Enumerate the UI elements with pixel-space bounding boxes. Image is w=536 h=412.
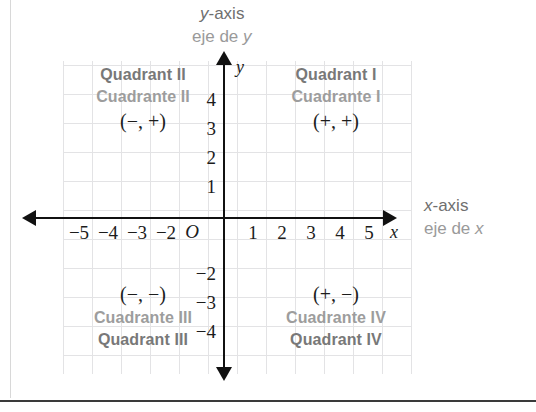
x-axis-tick-label: 5 bbox=[352, 222, 386, 244]
quadrant-4-label-english: Quadrant IV bbox=[261, 329, 411, 351]
x-axis-left-arrowhead-icon bbox=[22, 210, 36, 226]
grid-line-horizontal bbox=[63, 181, 411, 182]
x-axis-title-spanish-variable: x bbox=[475, 219, 484, 238]
x-axis-title-spanish: eje de x bbox=[424, 219, 484, 239]
x-axis-title-english-suffix: -axis bbox=[433, 196, 469, 215]
quadrant-3-label-group: (−, −) Cuadrante III Quadrant III bbox=[68, 281, 218, 351]
origin-label: O bbox=[178, 221, 206, 243]
y-axis-up-arrowhead-icon bbox=[216, 51, 232, 65]
quadrant-1-label-spanish: Cuadrante I bbox=[261, 86, 411, 108]
y-axis-tick-label: 1 bbox=[182, 176, 216, 198]
quadrant-3-sign-pair: (−, −) bbox=[68, 281, 218, 307]
bottom-divider-rule bbox=[0, 400, 536, 402]
y-axis-down-arrowhead-icon bbox=[216, 367, 232, 381]
y-axis-title-spanish: eje de y bbox=[192, 27, 252, 47]
x-axis-line bbox=[34, 217, 386, 219]
quadrant-1-sign-pair: (+, +) bbox=[261, 108, 411, 134]
grid-line-horizontal bbox=[63, 268, 411, 269]
quadrant-3-label-english: Quadrant III bbox=[68, 329, 218, 351]
quadrant-2-label-spanish: Cuadrante II bbox=[68, 86, 218, 108]
quadrant-4-label-spanish: Cuadrante IV bbox=[261, 307, 411, 329]
quadrant-2-label-group: Quadrant II Cuadrante II (−, +) bbox=[68, 64, 218, 134]
x-axis-title-spanish-prefix: eje de bbox=[424, 219, 475, 238]
y-axis-tick-label: 2 bbox=[182, 147, 216, 169]
quadrant-1-label-english: Quadrant I bbox=[261, 64, 411, 86]
y-axis-variable-label: y bbox=[236, 57, 244, 78]
y-axis-title-spanish-prefix: eje de bbox=[192, 27, 243, 46]
y-axis-title-english-suffix: -axis bbox=[209, 4, 245, 23]
x-axis-title-english: x-axis bbox=[424, 196, 468, 216]
left-margin-rule bbox=[10, 0, 11, 398]
quadrant-4-label-group: (+, −) Cuadrante IV Quadrant IV bbox=[261, 281, 411, 351]
quadrant-1-label-group: Quadrant I Cuadrante I (+, +) bbox=[261, 64, 411, 134]
grid-line-horizontal bbox=[63, 152, 411, 153]
grid-line-horizontal bbox=[63, 355, 411, 356]
quadrant-2-sign-pair: (−, +) bbox=[68, 108, 218, 134]
y-axis-title-english-variable: y bbox=[200, 4, 209, 23]
y-axis-line bbox=[223, 62, 225, 374]
quadrant-3-label-spanish: Cuadrante III bbox=[68, 307, 218, 329]
coordinate-plane-diagram: −5−4−3−2123454321−2−3−4 O x y y-axis eje… bbox=[0, 0, 536, 412]
grid-line-horizontal bbox=[63, 210, 411, 211]
grid-line-vertical bbox=[411, 61, 412, 374]
y-axis-title-english: y-axis bbox=[200, 4, 244, 24]
x-axis-title-english-variable: x bbox=[424, 196, 433, 215]
quadrant-2-label-english: Quadrant II bbox=[68, 64, 218, 86]
y-axis-title-spanish-variable: y bbox=[243, 27, 252, 46]
x-axis-variable-label: x bbox=[390, 222, 398, 243]
quadrant-4-sign-pair: (+, −) bbox=[261, 281, 411, 307]
